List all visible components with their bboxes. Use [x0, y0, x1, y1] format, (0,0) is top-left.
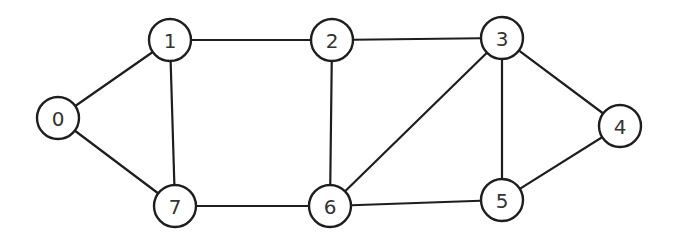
edge-3-6 [330, 38, 502, 206]
node-1: 1 [149, 19, 191, 61]
node-label: 0 [52, 107, 65, 131]
node-2: 2 [311, 19, 353, 61]
edge-2-3 [332, 38, 502, 40]
node-5: 5 [481, 179, 523, 221]
node-6: 6 [309, 185, 351, 227]
node-label: 5 [496, 189, 509, 213]
node-label: 2 [326, 29, 339, 53]
nodes-layer: 01234567 [37, 17, 641, 227]
edge-2-6 [330, 40, 332, 206]
node-3: 3 [481, 17, 523, 59]
node-label: 1 [164, 29, 177, 53]
graph-diagram: 01234567 [0, 0, 679, 237]
node-label: 6 [324, 195, 337, 219]
node-4: 4 [599, 105, 641, 147]
edge-1-7 [170, 40, 175, 206]
edges-layer [58, 38, 620, 206]
node-label: 4 [614, 115, 627, 139]
node-0: 0 [37, 97, 79, 139]
node-7: 7 [154, 185, 196, 227]
node-label: 7 [169, 195, 182, 219]
edge-5-6 [330, 200, 502, 206]
node-label: 3 [496, 27, 509, 51]
